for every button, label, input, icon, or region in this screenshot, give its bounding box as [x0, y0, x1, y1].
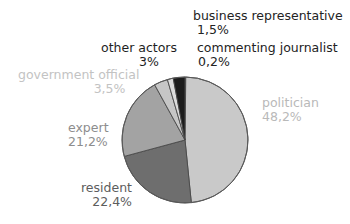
slice-label-value: 1,5% [197, 23, 343, 37]
slice-label-value: 0,2% [198, 55, 338, 69]
slice-label-other-actors: other actors 3% [101, 41, 177, 69]
slice-label-value: 3% [139, 55, 177, 69]
slice-label-value: 3,5% [18, 82, 139, 96]
slice-label-government-official: government official 3,5% [18, 68, 139, 96]
slice-label-name: business representative [193, 9, 343, 23]
slice-label-name: other actors [101, 41, 177, 55]
slice-label-commenting-journalist: commenting journalist 0,2% [197, 41, 338, 69]
slice-label-name: resident [81, 181, 132, 195]
pie-slice-group [122, 77, 248, 203]
slice-label-name: government official [18, 68, 139, 82]
pie-slice-politician [185, 77, 248, 203]
slice-label-name: expert [68, 121, 109, 135]
slice-label-value: 48,2% [262, 110, 319, 124]
slice-label-value: 22,4% [81, 195, 132, 209]
pie-chart: business representative 1,5% commenting … [0, 0, 350, 224]
slice-label-name: politician [262, 96, 319, 110]
slice-label-value: 21,2% [68, 135, 109, 149]
slice-label-name: commenting journalist [197, 41, 338, 55]
slice-label-business-representative: business representative 1,5% [193, 9, 343, 37]
slice-label-resident: resident 22,4% [81, 181, 132, 209]
slice-label-expert: expert 21,2% [68, 121, 109, 149]
slice-label-politician: politician 48,2% [262, 96, 319, 124]
